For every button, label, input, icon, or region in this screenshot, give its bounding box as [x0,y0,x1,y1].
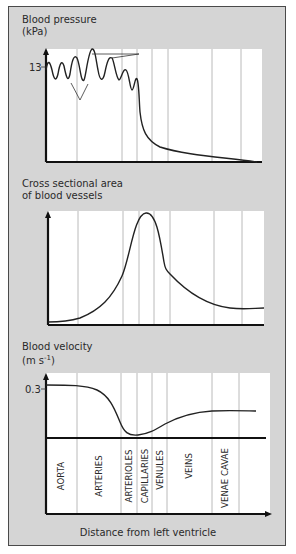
segment-label-capillaries: CAPILLARIES [140,449,150,504]
segment-label-venules: VENULES [155,450,165,490]
charts-graphic: AORTA ARTERIES ARTERIOLES CAPILLARIES VE… [0,0,296,554]
velocity-plot-area [46,373,270,514]
pressure-plot-area [46,49,262,162]
segment-label-arteries: ARTERIES [94,455,104,496]
segment-label-veins: VEINS [184,453,194,479]
segment-label-arterioles: ARTERIOLES [124,450,134,503]
segment-label-venae-cavae: VENAE CAVAE [220,448,230,508]
segment-label-aorta: AORTA [56,462,66,490]
